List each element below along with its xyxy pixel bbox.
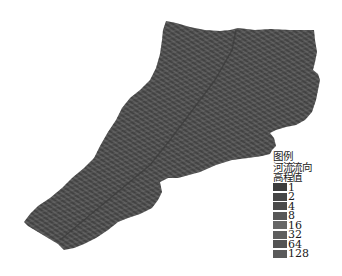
legend-swatch xyxy=(273,183,287,191)
legend-swatch xyxy=(273,250,287,258)
legend-swatch xyxy=(273,212,287,220)
legend-swatch xyxy=(273,202,287,210)
legend-swatch xyxy=(273,221,287,229)
legend: 图例 河流流向 高程值 1 2 4 8 16 32 64 128 xyxy=(273,151,311,259)
legend-swatch xyxy=(273,231,287,239)
legend-item: 128 xyxy=(273,249,311,259)
legend-swatch xyxy=(273,240,287,248)
legend-title: 图例 xyxy=(273,151,311,162)
legend-swatch xyxy=(273,193,287,201)
